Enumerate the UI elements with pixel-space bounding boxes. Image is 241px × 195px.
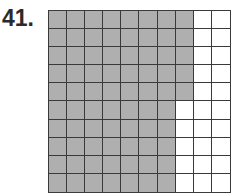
unshaded-cell — [212, 29, 230, 47]
shaded-cell — [139, 138, 157, 156]
hundred-grid — [48, 10, 231, 193]
shaded-cell — [158, 101, 176, 119]
unshaded-cell — [212, 65, 230, 83]
shaded-cell — [103, 101, 121, 119]
shaded-cell — [176, 29, 194, 47]
shaded-cell — [121, 11, 139, 29]
shaded-cell — [158, 156, 176, 174]
shaded-cell — [121, 156, 139, 174]
shaded-cell — [85, 120, 103, 138]
shaded-cell — [67, 174, 85, 192]
shaded-cell — [103, 47, 121, 65]
unshaded-cell — [194, 174, 212, 192]
shaded-cell — [85, 65, 103, 83]
shaded-cell — [67, 29, 85, 47]
unshaded-cell — [212, 138, 230, 156]
shaded-cell — [139, 120, 157, 138]
unshaded-cell — [212, 120, 230, 138]
shaded-cell — [158, 29, 176, 47]
shaded-cell — [121, 29, 139, 47]
shaded-cell — [139, 65, 157, 83]
shaded-cell — [158, 174, 176, 192]
shaded-cell — [121, 138, 139, 156]
shaded-cell — [85, 11, 103, 29]
shaded-cell — [85, 101, 103, 119]
unshaded-cell — [212, 47, 230, 65]
shaded-cell — [49, 11, 67, 29]
shaded-cell — [139, 11, 157, 29]
unshaded-cell — [194, 120, 212, 138]
shaded-cell — [139, 47, 157, 65]
unshaded-cell — [194, 156, 212, 174]
shaded-cell — [121, 47, 139, 65]
shaded-cell — [67, 156, 85, 174]
unshaded-cell — [194, 83, 212, 101]
shaded-cell — [49, 120, 67, 138]
shaded-cell — [158, 83, 176, 101]
shaded-cell — [139, 83, 157, 101]
shaded-cell — [85, 29, 103, 47]
unshaded-cell — [212, 83, 230, 101]
shaded-cell — [121, 120, 139, 138]
unshaded-cell — [212, 101, 230, 119]
shaded-cell — [49, 65, 67, 83]
shaded-cell — [176, 11, 194, 29]
shaded-cell — [139, 174, 157, 192]
shaded-cell — [67, 83, 85, 101]
shaded-cell — [158, 11, 176, 29]
shaded-cell — [67, 11, 85, 29]
unshaded-cell — [194, 65, 212, 83]
shaded-cell — [103, 29, 121, 47]
unshaded-cell — [176, 174, 194, 192]
shaded-cell — [49, 29, 67, 47]
unshaded-cell — [194, 138, 212, 156]
unshaded-cell — [194, 29, 212, 47]
shaded-cell — [158, 138, 176, 156]
shaded-cell — [139, 101, 157, 119]
shaded-cell — [121, 174, 139, 192]
shaded-cell — [103, 83, 121, 101]
shaded-cell — [139, 156, 157, 174]
unshaded-cell — [176, 120, 194, 138]
shaded-cell — [103, 138, 121, 156]
shaded-cell — [176, 47, 194, 65]
problem-number: 41. — [2, 5, 34, 32]
shaded-cell — [49, 83, 67, 101]
unshaded-cell — [176, 138, 194, 156]
unshaded-cell — [194, 11, 212, 29]
shaded-cell — [67, 101, 85, 119]
shaded-cell — [103, 174, 121, 192]
shaded-cell — [158, 47, 176, 65]
unshaded-cell — [176, 101, 194, 119]
shaded-cell — [67, 120, 85, 138]
shaded-cell — [85, 83, 103, 101]
shaded-cell — [85, 156, 103, 174]
shaded-cell — [121, 83, 139, 101]
shaded-cell — [103, 65, 121, 83]
shaded-cell — [121, 101, 139, 119]
shaded-cell — [103, 120, 121, 138]
unshaded-cell — [194, 47, 212, 65]
shaded-cell — [49, 156, 67, 174]
shaded-cell — [176, 83, 194, 101]
shaded-cell — [67, 65, 85, 83]
unshaded-cell — [212, 156, 230, 174]
shaded-cell — [103, 11, 121, 29]
shaded-cell — [158, 120, 176, 138]
unshaded-cell — [194, 101, 212, 119]
shaded-cell — [67, 138, 85, 156]
shaded-cell — [176, 65, 194, 83]
shaded-cell — [139, 29, 157, 47]
unshaded-cell — [176, 156, 194, 174]
shaded-cell — [49, 47, 67, 65]
unshaded-cell — [212, 174, 230, 192]
shaded-cell — [121, 65, 139, 83]
shaded-cell — [49, 138, 67, 156]
shaded-cell — [158, 65, 176, 83]
shaded-cell — [103, 156, 121, 174]
shaded-cell — [49, 101, 67, 119]
shaded-cell — [85, 174, 103, 192]
shaded-cell — [85, 47, 103, 65]
unshaded-cell — [212, 11, 230, 29]
shaded-cell — [85, 138, 103, 156]
